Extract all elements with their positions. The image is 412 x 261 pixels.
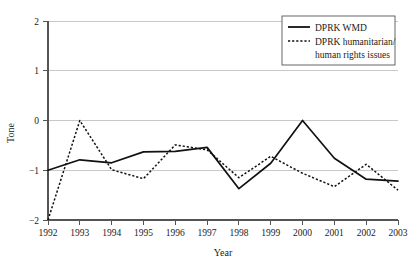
x-tick-label-1992: 1992 xyxy=(39,228,58,238)
x-tick-label-1993: 1993 xyxy=(70,228,89,238)
chart-container: 2 1 0 −1 −2 1992199319941995199619971998… xyxy=(0,0,412,261)
legend-label-dprk-wmd: DPRK WMD xyxy=(315,23,367,33)
x-tick-label-1997: 1997 xyxy=(198,228,217,238)
x-tick-label-2000: 2000 xyxy=(293,228,312,238)
y-tick-label-1: 1 xyxy=(34,66,39,76)
x-tick-label-1994: 1994 xyxy=(102,228,121,238)
chart-legend: DPRK WMD DPRK humanitarian/ human rights… xyxy=(282,16,396,65)
legend-label-dprk-humanitarian-line1: DPRK humanitarian/ xyxy=(315,37,396,47)
x-tick-labels: 1992199319941995199619971998199920002001… xyxy=(39,228,408,238)
x-tick-label-1996: 1996 xyxy=(166,228,185,238)
x-tick-label-1998: 1998 xyxy=(229,228,248,238)
y-tick-label-neg2: −2 xyxy=(29,216,39,226)
x-tick-label-2003: 2003 xyxy=(389,228,408,238)
x-tick-label-1995: 1995 xyxy=(134,228,153,238)
x-tick-label-1999: 1999 xyxy=(261,228,280,238)
x-tick-label-2002: 2002 xyxy=(357,228,376,238)
x-tickmarks xyxy=(48,220,398,225)
x-axis-title: Year xyxy=(214,247,233,258)
y-tick-label-neg1: −1 xyxy=(29,166,39,176)
y-tick-labels: 2 1 0 −1 −2 xyxy=(29,17,39,226)
y-axis-title: Tone xyxy=(5,123,16,143)
line-chart: 2 1 0 −1 −2 1992199319941995199619971998… xyxy=(0,0,412,261)
y-tickmarks xyxy=(43,21,48,220)
y-tick-label-0: 0 xyxy=(34,116,39,126)
legend-label-dprk-humanitarian-line2: human rights issues xyxy=(315,50,390,60)
y-tick-label-2: 2 xyxy=(34,17,39,27)
x-tick-label-2001: 2001 xyxy=(325,228,344,238)
